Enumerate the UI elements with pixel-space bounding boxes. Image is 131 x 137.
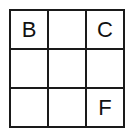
grid-cell-r0-c1 bbox=[49, 11, 87, 50]
grid-cell-r0-c2: C bbox=[87, 11, 125, 50]
grid-cell-r0-c0: B bbox=[11, 11, 49, 50]
grid-cell-r2-c2: F bbox=[87, 89, 125, 128]
letter-grid: B C F bbox=[9, 9, 125, 128]
grid-cell-r1-c1 bbox=[49, 50, 87, 89]
grid-cell-r1-c0 bbox=[11, 50, 49, 89]
grid-cell-r1-c2 bbox=[87, 50, 125, 89]
grid-cell-r2-c1 bbox=[49, 89, 87, 128]
grid-cell-r2-c0 bbox=[11, 89, 49, 128]
